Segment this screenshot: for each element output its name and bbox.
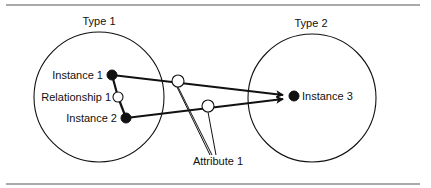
relationship1-label: Relationship 1 [41,91,111,103]
arrow-instance1-to-instance3 [112,75,283,95]
type1-label: Type 1 [82,15,115,27]
relationship1-node [113,92,123,102]
instance1-node [107,70,117,80]
instance2-label: Instance 2 [66,112,117,124]
attribute1-node-2 [202,100,214,112]
instance1-label: Instance 1 [52,69,103,81]
type-instance-diagram: Type 1Type 2Instance 1Instance 2Instance… [0,0,431,188]
type2-label: Type 2 [294,17,327,29]
instance3-label: Instance 3 [302,90,353,102]
instance2-node [121,113,131,123]
instance3-node [289,91,299,101]
attribute1-label: Attribute 1 [193,155,243,167]
attribute1-node-1 [172,75,184,87]
attribute-pointer-line [177,87,210,155]
diagram-canvas: Type 1Type 2Instance 1Instance 2Instance… [0,0,431,188]
attribute-pointer-line [178,87,212,155]
